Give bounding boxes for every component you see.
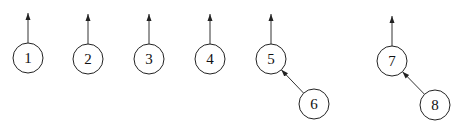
node-4: 4 bbox=[195, 44, 225, 74]
disjoint-set-forest-diagram: 12345678 bbox=[0, 0, 463, 127]
node-label: 5 bbox=[267, 51, 275, 67]
node-label: 8 bbox=[431, 97, 439, 113]
node-label: 7 bbox=[388, 53, 396, 69]
node-label: 6 bbox=[310, 96, 318, 112]
parent-pointer-arrow-icon bbox=[281, 70, 303, 93]
node-label: 3 bbox=[145, 51, 153, 67]
nodes-layer: 12345678 bbox=[13, 43, 450, 120]
node-2: 2 bbox=[73, 44, 103, 74]
node-6: 6 bbox=[299, 89, 329, 119]
parent-pointer-arrow-icon bbox=[402, 72, 424, 95]
node-label: 1 bbox=[24, 50, 32, 66]
node-label: 4 bbox=[206, 51, 214, 67]
node-label: 2 bbox=[84, 51, 92, 67]
node-3: 3 bbox=[134, 44, 164, 74]
node-8: 8 bbox=[420, 90, 450, 120]
node-1: 1 bbox=[13, 43, 43, 73]
node-7: 7 bbox=[377, 46, 407, 76]
node-5: 5 bbox=[256, 44, 286, 74]
